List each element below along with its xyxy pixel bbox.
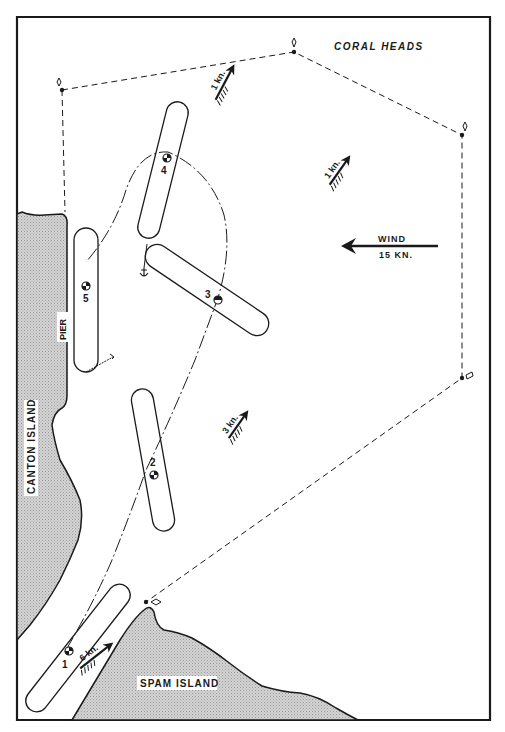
buoy-marker [57,78,64,92]
coral-heads-label: CORAL HEADS [334,41,424,52]
buoy-boundary-line [62,52,462,602]
svg-text:1 kn.: 1 kn. [209,69,227,92]
current-arrow-top: 1 kn. [204,59,241,106]
buoy-marker [292,38,296,54]
nautical-map: CANTON ISLAND PIER SPAM ISLAND CORAL HEA… [0,0,505,732]
ship-position-4[interactable]: 4 [135,99,190,240]
spam-island-label: SPAM ISLAND [137,676,219,690]
svg-text:1: 1 [62,659,68,670]
canton-island-label: CANTON ISLAND [24,398,38,496]
buoy-boundary-line-left [62,90,65,212]
wind-arrow: WIND 15 KN. [341,234,438,260]
map-frame [17,17,490,720]
ship-track [66,152,227,650]
ship-position-3[interactable]: 3 [141,240,274,340]
svg-text:5: 5 [83,293,89,304]
svg-text:4: 4 [161,165,167,176]
mooring-line [86,354,114,372]
current-arrow-mid: 1 kn. [318,148,356,191]
svg-text:3: 3 [205,289,211,300]
anchor-icon [140,244,148,276]
svg-text:WIND: WIND [378,234,406,244]
svg-text:3 kn.: 3 kn. [220,413,240,436]
svg-text:PIER: PIER [58,318,68,340]
buoy-marker [460,122,467,137]
spam-island [72,607,358,720]
svg-text:15 KN.: 15 KN. [379,250,413,260]
ship-position-2[interactable]: 2 [130,387,177,533]
svg-text:6 kn.: 6 kn. [78,643,100,664]
ship-position-5[interactable]: 5 [74,228,98,372]
svg-text:SPAM ISLAND: SPAM ISLAND [140,678,219,689]
svg-text:2: 2 [150,457,156,468]
svg-text:CANTON ISLAND: CANTON ISLAND [26,398,37,494]
current-arrow-channel: 3 kn. [217,403,254,444]
pier-label: PIER [57,312,68,342]
buoy-marker [144,599,161,605]
